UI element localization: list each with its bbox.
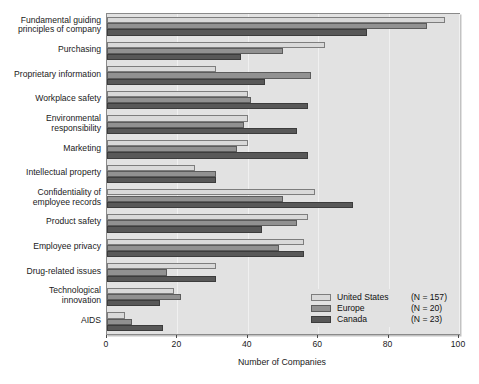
legend-swatch-us [311, 294, 331, 301]
category-label: Drug-related issues [0, 267, 101, 277]
legend-item: United States(N = 157) [311, 292, 447, 302]
x-tick-label: 40 [242, 339, 252, 349]
bar-canada [107, 202, 353, 208]
category-label: Purchasing [0, 45, 101, 55]
x-tick-label: 80 [383, 339, 393, 349]
bar-canada [107, 177, 216, 183]
category-label: Product safety [0, 217, 101, 227]
legend-sample-size: (N = 20) [411, 303, 442, 313]
category-label: Confidentiality of employee records [0, 188, 101, 207]
bar-group [107, 63, 459, 88]
x-tick-mark [458, 335, 459, 338]
bar-canada [107, 251, 304, 257]
bars-layer [107, 14, 459, 334]
category-label: Marketing [0, 144, 101, 154]
x-tick-label: 0 [104, 339, 109, 349]
bar-group [107, 260, 459, 285]
legend-sample-size: (N = 157) [411, 292, 447, 302]
category-label: Proprietary information [0, 70, 101, 80]
bar-canada [107, 226, 262, 232]
x-tick-label: 60 [312, 339, 322, 349]
category-label: Environmental responsibility [0, 114, 101, 133]
bar-canada [107, 29, 367, 35]
legend-swatch-europe [311, 305, 331, 312]
bar-canada [107, 128, 297, 134]
category-axis-labels: Fundamental guiding principles of compan… [0, 13, 101, 333]
bar-chart: Fundamental guiding principles of compan… [0, 0, 479, 384]
bar-canada [107, 325, 163, 331]
bar-group [107, 236, 459, 261]
legend-label: United States [337, 292, 411, 302]
category-label: Employee privacy [0, 242, 101, 252]
bar-canada [107, 300, 160, 306]
x-tick-mark [247, 335, 248, 338]
bar-group [107, 137, 459, 162]
bar-group [107, 162, 459, 187]
bar-group [107, 211, 459, 236]
legend-sample-size: (N = 23) [411, 314, 442, 324]
category-label: Technological innovation [0, 286, 101, 305]
x-tick-mark [176, 335, 177, 338]
legend-item: Canada(N = 23) [311, 314, 447, 324]
bar-group [107, 88, 459, 113]
x-tick-label: 100 [451, 339, 465, 349]
x-tick-label: 20 [172, 339, 182, 349]
category-label: Fundamental guiding principles of compan… [0, 16, 101, 35]
bar-group [107, 14, 459, 39]
category-label: Workplace safety [0, 94, 101, 104]
plot-area: United States(N = 157)Europe(N = 20)Cana… [106, 13, 460, 335]
x-axis: 020406080100 [106, 335, 458, 357]
category-label: AIDS [0, 316, 101, 326]
x-tick-mark [106, 335, 107, 338]
bar-group [107, 186, 459, 211]
category-label: Intellectual property [0, 168, 101, 178]
legend-item: Europe(N = 20) [311, 303, 447, 313]
bar-canada [107, 79, 265, 85]
x-tick-mark [388, 335, 389, 338]
chart-legend: United States(N = 157)Europe(N = 20)Cana… [307, 289, 452, 327]
legend-label: Canada [337, 314, 411, 324]
x-axis-title: Number of Companies [106, 357, 458, 367]
bar-canada [107, 54, 241, 60]
bar-group [107, 39, 459, 64]
legend-swatch-canada [311, 316, 331, 323]
bar-canada [107, 103, 308, 109]
bar-canada [107, 276, 216, 282]
legend-label: Europe [337, 303, 411, 313]
bar-group [107, 112, 459, 137]
gridline [459, 14, 460, 334]
x-tick-mark [317, 335, 318, 338]
bar-canada [107, 152, 308, 158]
